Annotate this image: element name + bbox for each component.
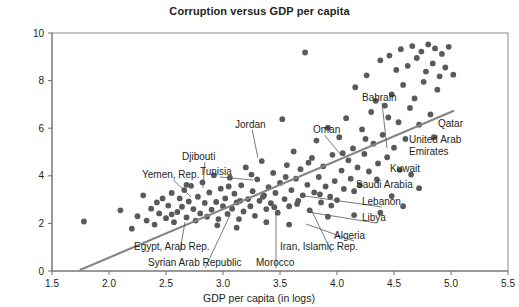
data-point	[409, 43, 415, 49]
data-point	[247, 203, 253, 209]
country-label: Qatar	[438, 118, 464, 129]
x-tick-label: 5.0	[444, 278, 458, 289]
data-point	[428, 112, 434, 118]
data-point	[341, 186, 347, 192]
data-point	[209, 207, 215, 213]
data-point	[234, 225, 240, 231]
y-tick-label: 2	[38, 218, 44, 229]
data-point	[343, 115, 349, 121]
data-point	[442, 65, 448, 71]
data-point	[232, 191, 238, 197]
data-point	[263, 206, 269, 212]
data-point	[271, 204, 277, 210]
data-point	[387, 53, 393, 59]
data-point	[328, 203, 334, 209]
data-point	[163, 215, 169, 221]
data-point	[414, 55, 420, 61]
data-point	[434, 87, 440, 93]
y-tick-label: 8	[38, 75, 44, 86]
data-point	[254, 176, 260, 182]
data-point	[202, 200, 208, 206]
country-label: Egypt, Arab Rep.	[134, 241, 210, 252]
data-point	[214, 222, 220, 228]
country-label: Libya	[362, 212, 386, 223]
data-point	[135, 213, 141, 219]
data-point	[400, 82, 406, 88]
x-tick-label: 2.5	[159, 278, 173, 289]
country-label: Oman	[313, 124, 340, 135]
data-point	[314, 138, 320, 144]
country-labels: BahrainQatarUnited ArabEmiratesKuwaitSau…	[134, 92, 464, 268]
data-point	[156, 211, 162, 217]
x-tick-label: 1.5	[45, 278, 59, 289]
y-tick-label: 0	[38, 266, 44, 277]
y-axis-ticks: 0246810	[33, 28, 52, 277]
data-point	[236, 216, 242, 222]
country-label: Emirates	[409, 146, 448, 157]
scatter-plot: 1.52.02.53.03.54.04.55.05.5 0246810 Bahr…	[0, 0, 519, 307]
data-point	[140, 192, 146, 198]
data-point	[169, 211, 175, 217]
data-point	[304, 182, 310, 188]
data-point	[416, 185, 422, 191]
data-point	[309, 155, 315, 161]
data-point	[241, 209, 247, 215]
country-label: Iran, Islamic Rep.	[280, 241, 358, 252]
data-point	[380, 132, 386, 138]
x-axis-title: GDP per capita (in logs)	[203, 292, 315, 304]
data-point	[330, 152, 336, 158]
data-point	[222, 196, 228, 202]
data-point	[118, 207, 124, 213]
data-point	[298, 166, 304, 172]
country-label: Syrian Arab Republic	[148, 257, 241, 268]
data-point	[171, 219, 177, 225]
data-point	[259, 158, 265, 164]
data-point	[144, 218, 150, 224]
data-point	[190, 206, 196, 212]
country-label: Tunisia	[200, 166, 232, 177]
data-point	[286, 222, 292, 228]
data-point	[391, 145, 397, 151]
data-point	[291, 149, 297, 155]
x-tick-label: 3.0	[216, 278, 230, 289]
data-point	[250, 188, 256, 194]
x-tick-label: 2.0	[102, 278, 116, 289]
data-point	[352, 84, 358, 90]
data-point	[206, 190, 212, 196]
data-point	[213, 199, 219, 205]
data-point	[339, 168, 345, 174]
data-point	[316, 174, 322, 180]
data-point	[286, 203, 292, 209]
data-point	[359, 126, 365, 132]
data-point	[361, 151, 367, 157]
data-point	[396, 119, 402, 125]
data-point	[336, 134, 342, 140]
data-point	[175, 209, 181, 215]
data-point	[148, 206, 154, 212]
data-point	[300, 192, 306, 198]
data-point	[249, 172, 255, 178]
data-point	[407, 105, 413, 111]
data-point	[450, 72, 456, 78]
data-point	[283, 174, 289, 180]
data-point	[270, 170, 276, 176]
data-point	[432, 46, 438, 52]
data-point	[197, 211, 203, 217]
country-label: Djibouti	[182, 151, 215, 162]
data-point	[284, 162, 290, 168]
x-tick-label: 3.5	[273, 278, 287, 289]
data-point	[384, 154, 390, 160]
data-point	[311, 190, 317, 196]
data-point	[377, 57, 383, 63]
data-point	[400, 203, 406, 209]
x-tick-label: 5.5	[501, 278, 515, 289]
data-point	[294, 201, 300, 207]
data-point	[421, 79, 427, 85]
data-point	[393, 67, 399, 73]
data-point	[412, 96, 418, 102]
country-label: United Arab	[409, 134, 462, 145]
data-point	[439, 51, 445, 57]
data-point	[323, 184, 329, 190]
data-point	[346, 157, 352, 163]
data-point	[425, 42, 431, 48]
